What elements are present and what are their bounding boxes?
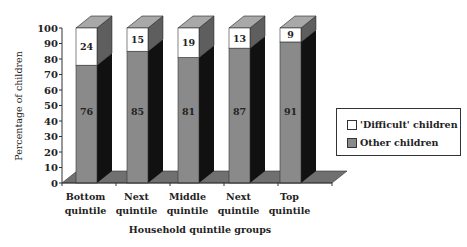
bar-side-other <box>250 36 265 183</box>
category-label: quintile <box>65 205 107 216</box>
legend: 'Difficult' children Other children <box>336 108 461 156</box>
y-tick-label: 60 <box>44 85 58 96</box>
legend-swatch-grey <box>347 138 357 148</box>
category-label: quintile <box>269 205 311 216</box>
y-tick-label: 20 <box>44 147 58 158</box>
bar-side-other <box>97 53 112 183</box>
legend-swatch-white <box>347 120 357 130</box>
bar-side-other <box>199 45 214 183</box>
bar-group: 8119 <box>178 16 214 183</box>
bar-other <box>76 65 97 183</box>
legend-label: 'Difficult' children <box>360 119 458 130</box>
category-label: quintile <box>167 205 209 216</box>
y-tick-label: 10 <box>44 162 58 173</box>
y-tick-label: 70 <box>44 69 58 80</box>
category-label: quintile <box>218 205 260 216</box>
y-tick-label: 40 <box>44 116 58 127</box>
value-label-other: 76 <box>80 106 94 117</box>
y-tick-label: 30 <box>44 131 58 142</box>
category-label: quintile <box>116 205 158 216</box>
category-label: Next <box>124 191 149 202</box>
value-label-difficult: 19 <box>182 37 196 48</box>
value-label-other: 81 <box>182 106 195 117</box>
bar-group: 8713 <box>229 16 265 183</box>
y-tick-label: 100 <box>37 23 58 34</box>
y-tick-label: 0 <box>51 178 58 189</box>
bar-group: 919 <box>280 16 316 183</box>
legend-label: Other children <box>360 137 438 148</box>
y-tick-label: 90 <box>44 38 58 49</box>
value-label-other: 91 <box>284 106 297 117</box>
category-label: Bottom <box>66 191 106 202</box>
x-axis-label: Household quintile groups <box>129 224 271 235</box>
legend-item-other: Other children <box>347 137 438 148</box>
category-label: Next <box>226 191 251 202</box>
bar-other <box>127 51 148 183</box>
category-label: Middle <box>169 191 206 202</box>
y-axis-label: Percentage of children <box>13 51 24 161</box>
bar-other <box>178 57 199 183</box>
bar-group: 7624 <box>76 16 112 183</box>
value-label-difficult: 13 <box>233 33 246 44</box>
category-label: Top <box>280 191 299 202</box>
y-tick-label: 50 <box>44 100 58 111</box>
bar-side-other <box>301 30 316 183</box>
legend-item-difficult: 'Difficult' children <box>347 119 458 130</box>
bar-side-other <box>148 39 163 183</box>
x-axis-categories: BottomquintileNextquintileMiddlequintile… <box>65 191 311 216</box>
value-label-difficult: 15 <box>131 34 144 45</box>
value-label-other: 87 <box>233 106 246 117</box>
value-label-difficult: 9 <box>287 29 294 40</box>
bars: 7624851581198713919 <box>76 16 316 183</box>
bar-group: 8515 <box>127 16 163 183</box>
value-label-difficult: 24 <box>80 41 94 52</box>
value-label-other: 85 <box>131 106 144 117</box>
y-tick-label: 80 <box>44 54 58 65</box>
